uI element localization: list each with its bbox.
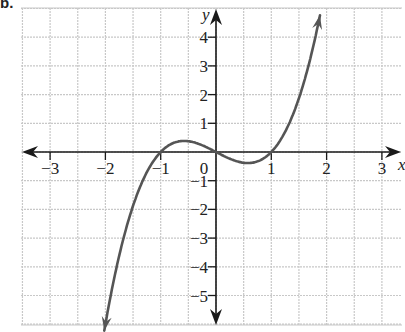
axis-ticks: −3−2−10123−5−4−3−2−11234 <box>41 28 386 305</box>
cubic-function-graph: xy −3−2−10123−5−4−3−2−11234 <box>0 0 405 332</box>
y-tick-label: 3 <box>200 57 209 76</box>
curve-path <box>104 15 320 330</box>
y-tick-label: 2 <box>200 86 209 105</box>
y-tick-label: 1 <box>200 114 209 133</box>
axes: xy <box>22 5 405 325</box>
y-tick-label: 4 <box>200 28 209 47</box>
x-axis-label: x <box>397 155 405 174</box>
y-tick-label: −1 <box>190 172 208 191</box>
y-tick-label: −3 <box>190 229 208 248</box>
grid <box>21 8 402 325</box>
y-tick-label: −5 <box>190 287 208 306</box>
y-axis-label: y <box>200 5 210 24</box>
x-tick-label: −2 <box>96 159 114 178</box>
x-tick-label: −3 <box>41 159 59 178</box>
y-tick-label: −4 <box>190 258 209 277</box>
x-tick-label: 1 <box>267 159 276 178</box>
y-tick-label: −2 <box>190 200 208 219</box>
x-tick-label: 2 <box>322 159 331 178</box>
x-tick-label: 3 <box>378 159 387 178</box>
function-curve <box>102 15 322 330</box>
